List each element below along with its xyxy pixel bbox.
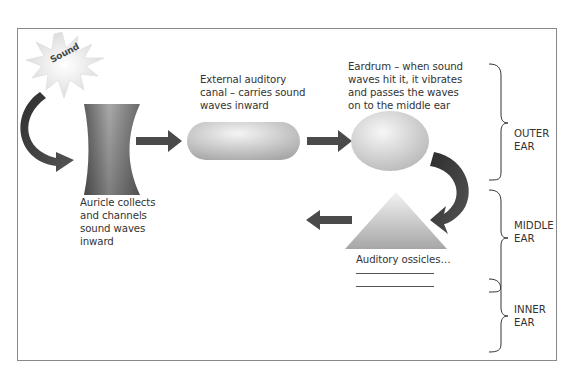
auricle-label-line: inward	[80, 235, 170, 248]
eardrum-label-line: on to the middle ear	[348, 99, 488, 112]
canal-label-line: waves inward	[200, 99, 330, 112]
eardrum-label-line: waves hit it, it vibrates	[348, 73, 488, 86]
section-label-line: EAR	[514, 140, 549, 153]
section-middle-ear: MIDDLE EAR	[514, 219, 554, 245]
section-label-line: OUTER	[514, 127, 549, 140]
sound-burst-icon	[26, 32, 104, 98]
auricle-shape	[84, 104, 140, 195]
section-label-line: EAR	[514, 232, 554, 245]
diagram-graphics	[0, 0, 578, 377]
curved-arrow-icon	[430, 152, 469, 234]
brace-outer-ear-icon	[489, 64, 508, 180]
auricle-label-line: and channels	[80, 209, 170, 222]
eardrum-shape	[351, 111, 429, 171]
section-outer-ear: OUTER EAR	[514, 127, 549, 153]
curved-arrow-icon	[20, 92, 74, 172]
brace-inner-ear-icon	[489, 279, 508, 352]
section-inner-ear: INNER EAR	[514, 303, 546, 329]
brace-middle-ear-icon	[489, 190, 508, 292]
canal-label-line: canal – carries sound	[200, 86, 330, 99]
section-label-line: MIDDLE	[514, 219, 554, 232]
arrow-left-icon	[306, 210, 352, 230]
eardrum-label-line: Eardrum – when sound	[348, 60, 488, 73]
eardrum-label-line: and passes the waves	[348, 86, 488, 99]
ossicles-label-line: Auditory ossicles…	[356, 253, 476, 266]
auricle-label-line: sound waves	[80, 222, 170, 235]
eardrum-label: Eardrum – when sound waves hit it, it vi…	[348, 60, 488, 112]
section-label-line: EAR	[514, 316, 546, 329]
canal-label: External auditory canal – carries sound …	[200, 73, 330, 112]
auricle-label: Auricle collects and channels sound wave…	[80, 196, 170, 248]
arrow-right-icon	[307, 130, 352, 152]
ossicles-blank-line-1[interactable]	[356, 273, 434, 274]
canal-label-line: External auditory	[200, 73, 330, 86]
ossicles-blank-line-2[interactable]	[356, 286, 434, 287]
ossicles-label: Auditory ossicles…	[356, 253, 476, 266]
ear-canal-shape	[187, 122, 300, 160]
arrow-right-icon	[136, 130, 182, 152]
auricle-label-line: Auricle collects	[80, 196, 170, 209]
section-label-line: INNER	[514, 303, 546, 316]
